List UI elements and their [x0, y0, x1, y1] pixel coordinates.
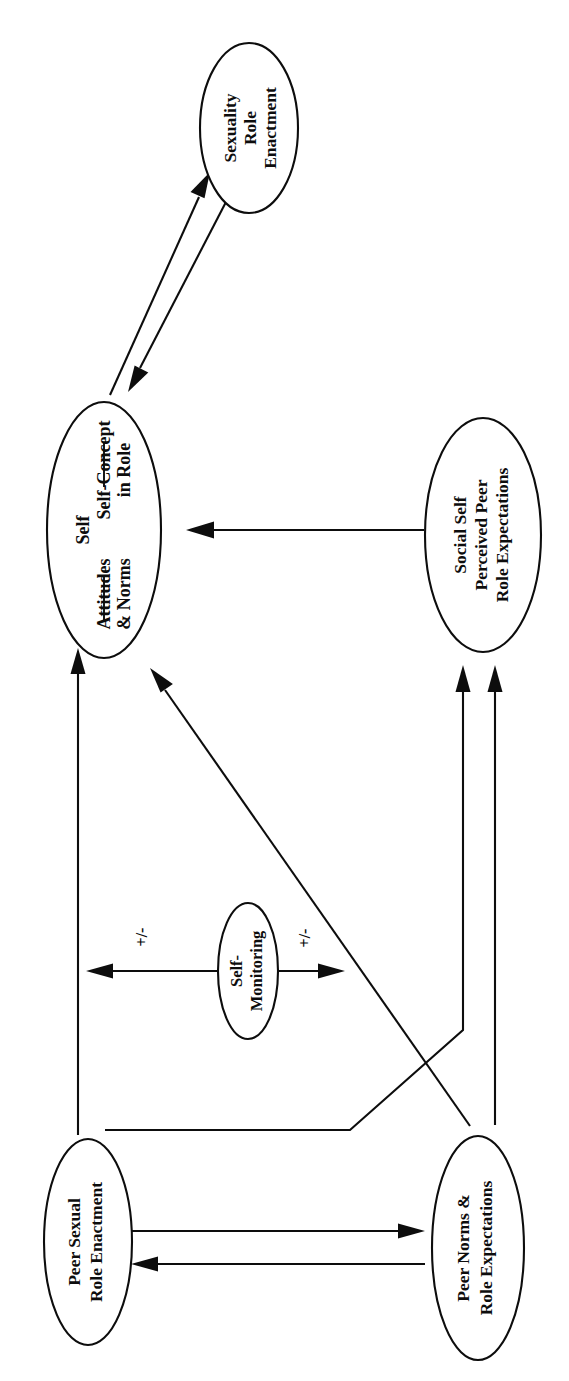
edge-sexuality-to-self	[128, 200, 227, 392]
node-label-social-self-line3: Role Expectations	[492, 467, 512, 602]
node-label-self-monitoring-line1: Self-	[227, 955, 246, 987]
node-label-sexuality-line3: Enactment	[260, 87, 280, 169]
edge-self-monitoring-moderator-lower: +/-	[277, 929, 345, 979]
node-label-self-monitoring-line2: Monitoring	[247, 930, 266, 1011]
edge-self-monitoring-moderator-upper: +/-	[86, 928, 219, 979]
edge-peer-norms-to-peer-sexual	[131, 1257, 425, 1272]
edge-social-self-to-self	[186, 522, 424, 539]
node-self[interactable]: Self Self-Concept in Role Attitudes & No…	[47, 402, 161, 658]
node-label-sexuality-line2: Role	[240, 111, 260, 145]
node-label-sexuality-line1: Sexuality	[220, 93, 240, 162]
node-label-peer-sexual-line2: Role Enactment	[86, 1182, 106, 1302]
edge-peer-sexual-to-self	[71, 648, 86, 1135]
edge-peer-norms-to-social-self	[488, 665, 503, 1125]
node-peer-norms-role-expectations[interactable]: Peer Norms & Role Expectations	[432, 1136, 524, 1360]
node-label-self-concept-line2: in Role	[114, 443, 134, 498]
node-label-social-self-line2: Perceived Peer	[471, 479, 491, 590]
edge-peer-sexual-to-peer-norms	[131, 1224, 425, 1239]
edge-peer-sexual-to-social-self	[105, 665, 471, 1130]
node-peer-sexual-role-enactment[interactable]: Peer Sexual Role Enactment	[44, 1139, 132, 1345]
edge-self-to-sexuality	[110, 172, 210, 395]
diagram-canvas: +/- +/- Sexuality Role Enactment Self Se…	[0, 0, 569, 1381]
node-label-peer-norms-line1: Peer Norms &	[453, 1194, 473, 1302]
node-label-self-attitudes-line1: Attitudes	[94, 559, 114, 630]
node-social-self[interactable]: Social Self Perceived Peer Role Expectat…	[425, 418, 541, 652]
node-self-monitoring[interactable]: Self- Monitoring	[218, 903, 278, 1039]
moderator-sign-lower: +/-	[296, 929, 313, 948]
path-model-diagram: +/- +/- Sexuality Role Enactment Self Se…	[0, 0, 569, 1381]
node-label-self-heading: Self	[73, 514, 93, 544]
moderator-sign-upper: +/-	[133, 928, 150, 947]
node-label-peer-norms-line2: Role Expectations	[476, 1180, 496, 1315]
node-label-self-concept-line1: Self-Concept	[94, 421, 114, 520]
node-sexuality-role-enactment[interactable]: Sexuality Role Enactment	[200, 43, 298, 213]
node-label-social-self-line1: Social Self	[450, 496, 470, 573]
node-label-self-attitudes-line2: & Norms	[114, 558, 134, 629]
node-label-peer-sexual-line1: Peer Sexual	[64, 1198, 84, 1286]
edge-peer-norms-to-self	[150, 668, 470, 1126]
